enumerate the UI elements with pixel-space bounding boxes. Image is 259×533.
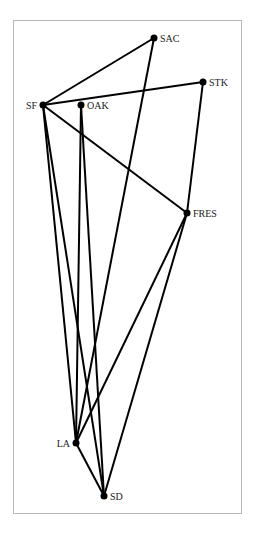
node-fres xyxy=(184,210,191,217)
node-label-la: LA xyxy=(57,438,71,449)
node-label-sac: SAC xyxy=(160,33,180,44)
node-sf xyxy=(40,102,47,109)
node-label-sd: SD xyxy=(110,491,123,502)
edge-sf-stk xyxy=(43,82,203,105)
edge-sf-sac xyxy=(43,38,154,105)
node-stk xyxy=(200,79,207,86)
node-label-fres: FRES xyxy=(193,208,217,219)
network-graph: SACSTKSFOAKFRESLASD xyxy=(0,0,259,533)
node-label-oak: OAK xyxy=(87,100,109,111)
edge-sf-sd xyxy=(43,105,104,496)
node-label-stk: STK xyxy=(209,77,229,88)
node-oak xyxy=(78,102,85,109)
edge-fres-la xyxy=(76,213,187,443)
edge-stk-fres xyxy=(187,82,203,213)
node-label-sf: SF xyxy=(26,100,38,111)
node-sac xyxy=(151,35,158,42)
edge-oak-sd xyxy=(81,105,104,496)
edge-sf-fres xyxy=(43,105,187,213)
edge-oak-la xyxy=(76,105,81,443)
edge-sf-la xyxy=(43,105,76,443)
edge-fres-sd xyxy=(104,213,187,496)
node-la xyxy=(73,440,80,447)
node-sd xyxy=(101,493,108,500)
